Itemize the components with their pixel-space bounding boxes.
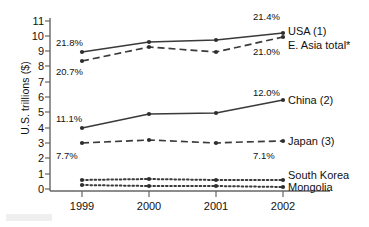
annotation-easia-1999: 20.7% [56, 67, 83, 77]
x-tick-2002: 2002 [271, 201, 295, 212]
annotation-usa-1999: 21.8% [56, 38, 83, 48]
series-label-japan: Japan (3) [288, 136, 334, 147]
annotation-china-2002: 12.0% [253, 88, 280, 98]
series-label-mongolia: Mongolia [288, 182, 333, 193]
annotation-japan-2002: 7.1% [253, 151, 275, 161]
annotation-easia-2002: 21.0% [253, 47, 280, 57]
series-line-mongolia [82, 185, 283, 187]
series-label-usa: USA (1) [288, 26, 327, 37]
x-tick-1999: 1999 [70, 201, 94, 212]
line-chart: U.S. trillions ($) 11 10 9 8 7 6 5 4 3 2… [0, 0, 369, 227]
series-line-china [82, 100, 283, 128]
annotation-china-1999: 11.1% [56, 114, 82, 124]
series-label-east-asia: E. Asia total* [288, 40, 350, 51]
series-label-south-korea: South Korea [288, 170, 349, 181]
series-label-china: China (2) [288, 95, 333, 106]
x-axis-ticks [82, 191, 283, 197]
x-tick-2000: 2000 [137, 201, 161, 212]
cropped-caption-artifact [6, 214, 52, 221]
annotation-usa-2002: 21.4% [253, 12, 280, 22]
x-tick-2001: 2001 [204, 201, 228, 212]
series-line-south-korea [82, 179, 283, 180]
series-line-japan [82, 140, 283, 143]
annotation-japan-1999: 7.7% [56, 151, 78, 161]
